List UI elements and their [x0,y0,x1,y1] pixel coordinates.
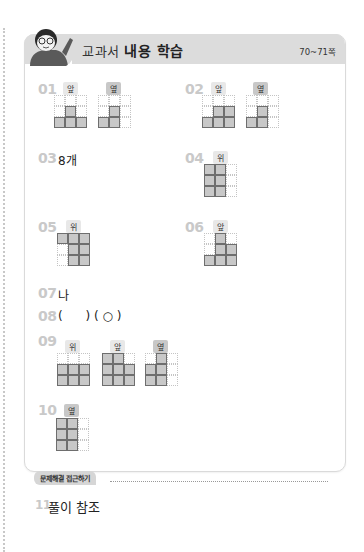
filled-cell [145,364,156,375]
view-label-front: 앞 [213,220,228,233]
view-label-front: 앞 [211,82,226,95]
empty-cell [120,117,131,128]
filled-cell [76,117,87,128]
question-number: 06 [185,219,203,235]
filled-cell [79,375,90,386]
empty-cell [167,353,178,364]
filled-cell [257,106,268,117]
section-divider [110,481,328,482]
filled-cell [124,375,135,386]
filled-cell [57,364,68,375]
empty-cell [224,95,235,106]
answer-text: 나 [58,286,69,303]
empty-cell [57,244,68,255]
filled-cell [56,429,67,440]
filled-cell [65,117,76,128]
empty-cell [268,117,279,128]
empty-cell [202,95,213,106]
empty-cell [78,429,89,440]
empty-cell [76,106,87,117]
empty-cell [78,418,89,429]
filled-cell [79,233,90,244]
view-label-front: 앞 [110,340,125,353]
view-label-side: 옆 [106,82,121,95]
empty-cell [57,353,68,364]
filled-cell [257,117,268,128]
empty-cell [57,255,68,266]
filled-cell [67,429,78,440]
empty-cell [204,244,215,255]
empty-cell [65,95,76,106]
filled-cell [113,353,124,364]
filled-cell [68,255,79,266]
filled-cell [145,375,156,386]
empty-cell [68,353,79,364]
filled-cell [215,175,226,186]
view-grid [57,353,90,386]
filled-cell [215,164,226,175]
filled-cell [204,175,215,186]
title-bold: 내용 학습 [124,43,183,59]
filled-cell [109,117,120,128]
answer-text: 8개 [58,151,77,168]
view-grid [246,95,279,128]
view-label-front: 앞 [63,82,78,95]
filled-cell [67,418,78,429]
empty-cell [124,353,135,364]
view-label-side: 옆 [64,404,79,417]
page-margin-rule [3,28,5,552]
empty-cell [145,353,156,364]
filled-cell [204,255,215,266]
empty-cell [202,106,213,117]
filled-cell [79,255,90,266]
view-grid [145,353,178,386]
filled-cell [213,106,224,117]
filled-cell [67,440,78,451]
answer-text: ( ) ( ○ ) [58,309,122,323]
view-label-side: 옆 [253,82,268,95]
question-number: 10 [38,402,56,418]
empty-cell [204,233,215,244]
filled-cell [215,233,226,244]
filled-cell [156,364,167,375]
empty-cell [226,175,237,186]
empty-cell [76,95,87,106]
view-grid [204,164,237,197]
filled-cell [102,353,113,364]
filled-cell [109,106,120,117]
filled-cell [102,364,113,375]
filled-cell [226,244,237,255]
filled-cell [79,244,90,255]
empty-cell [246,95,257,106]
question-number: 09 [38,333,56,349]
question-number: 03 [38,150,56,166]
filled-cell [156,375,167,386]
empty-cell [268,106,279,117]
empty-cell [79,353,90,364]
filled-cell [213,117,224,128]
view-label-top: 위 [66,220,81,233]
empty-cell [167,375,178,386]
empty-cell [109,95,120,106]
filled-cell [224,106,235,117]
view-label-top: 위 [213,151,228,164]
filled-cell [215,244,226,255]
question-number: 04 [185,150,203,166]
view-grid [98,95,131,128]
filled-cell [65,106,76,117]
question-number: 02 [185,81,203,97]
filled-cell [156,353,167,364]
filled-cell [204,186,215,197]
section-title: 교과서 내용 학습 [82,40,184,60]
filled-cell [68,244,79,255]
mascot-character-icon [26,26,74,66]
empty-cell [226,164,237,175]
view-label-top: 위 [65,340,80,353]
filled-cell [68,364,79,375]
filled-cell [124,364,135,375]
filled-cell [226,255,237,266]
empty-cell [120,95,131,106]
filled-cell [57,375,68,386]
filled-cell [215,186,226,197]
question-number: 07 [38,285,56,301]
